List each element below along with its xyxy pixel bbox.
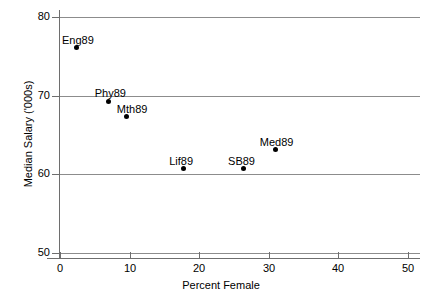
x-tick-label-10: 10 (110, 262, 150, 274)
scatter-chart: 50607080 01020304050 Eng89Phy89Mth89Lif8… (0, 0, 430, 300)
data-point-med89 (273, 147, 278, 152)
data-point-mth89 (124, 114, 129, 119)
x-tick-label-30: 30 (249, 262, 289, 274)
x-axis-title-text: Percent Female (182, 279, 260, 291)
y-tick-label-wrap-50: 50 (22, 247, 50, 258)
data-point-label-mth89: Mth89 (117, 104, 148, 115)
x-axis-title: Percent Female (0, 279, 430, 291)
x-tick-label-20: 20 (179, 262, 219, 274)
data-point-lif89 (181, 166, 186, 171)
gridline-y-80 (60, 17, 420, 18)
data-point-eng89 (74, 45, 79, 50)
y-axis-line (59, 10, 60, 259)
plot-area: 50607080 01020304050 Eng89Phy89Mth89Lif8… (0, 0, 430, 300)
y-axis-title: Median Salary ('000s) (22, 44, 34, 224)
x-tick-label-0: 0 (40, 262, 80, 274)
data-point-label-eng89: Eng89 (62, 35, 94, 46)
x-axis-line (47, 258, 420, 259)
x-tick-label-50: 50 (388, 262, 428, 274)
gridline-y-50 (60, 253, 420, 254)
y-tick-label-50: 50 (28, 247, 50, 258)
data-point-label-lif89: Lif89 (169, 156, 193, 167)
y-tick-label-80: 80 (28, 11, 50, 22)
data-point-sb89 (241, 166, 246, 171)
gridline-y-60 (60, 174, 420, 175)
data-point-label-phy89: Phy89 (95, 88, 126, 99)
data-point-label-med89: Med89 (260, 137, 294, 148)
x-tick-label-40: 40 (318, 262, 358, 274)
data-point-phy89 (106, 99, 111, 104)
y-tick-label-wrap-80: 80 (22, 11, 50, 22)
data-point-label-sb89: SB89 (228, 156, 255, 167)
